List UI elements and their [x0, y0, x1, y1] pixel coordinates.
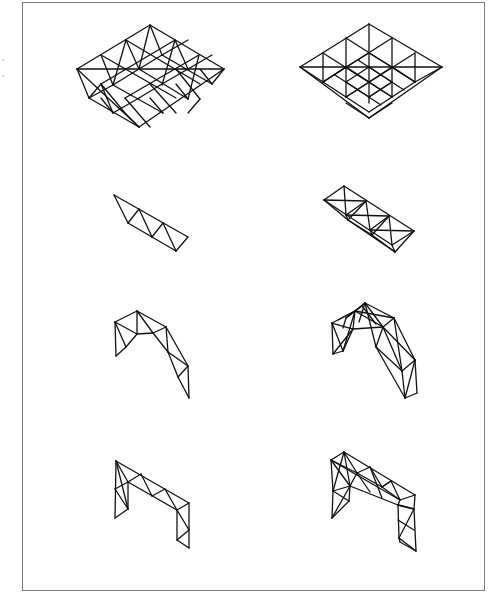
truss-member — [369, 53, 392, 67]
truss-member — [376, 347, 402, 371]
box-truss-right — [324, 186, 414, 252]
truss-member — [153, 327, 166, 333]
truss-member — [126, 334, 137, 347]
truss-member — [324, 200, 348, 220]
truss-member — [176, 237, 188, 251]
truss-member — [177, 530, 189, 540]
planar-truss-left — [114, 195, 188, 251]
truss-member — [398, 505, 399, 538]
truss-member — [128, 474, 141, 482]
truss-member — [332, 323, 343, 351]
truss-member — [348, 201, 366, 220]
truss-member — [89, 85, 113, 98]
truss-diagram — [0, 0, 494, 603]
scan-specks — [2, 59, 4, 77]
truss-member — [331, 460, 333, 491]
truss-member — [153, 333, 168, 352]
grid-plate-left — [77, 25, 224, 127]
truss-member — [346, 201, 366, 215]
scan-speck — [2, 59, 4, 61]
truss-member — [77, 69, 89, 98]
truss-member — [150, 25, 162, 55]
truss-member — [116, 347, 126, 356]
scan-speck — [2, 75, 4, 77]
truss-member — [166, 327, 188, 366]
truss-member — [392, 67, 415, 82]
truss-member — [125, 98, 150, 127]
truss-member — [128, 209, 139, 223]
truss-member — [177, 510, 189, 530]
truss-member — [350, 486, 398, 505]
truss-member — [405, 393, 417, 398]
grid-plate-right — [300, 24, 442, 118]
truss-member — [176, 84, 188, 99]
truss-member — [115, 311, 137, 322]
truss-member — [405, 360, 415, 398]
truss-member — [115, 322, 116, 356]
truss-member — [332, 491, 333, 518]
truss-member — [324, 200, 366, 201]
truss-member — [188, 55, 212, 69]
truss-member — [372, 216, 389, 235]
truss-member — [139, 69, 224, 127]
truss-member — [150, 98, 163, 113]
truss-member — [300, 67, 323, 82]
truss-member — [398, 505, 414, 509]
truss-member — [414, 495, 415, 509]
truss-member — [370, 216, 389, 230]
truss-member — [178, 366, 188, 377]
truss-member — [137, 333, 153, 334]
truss-member — [323, 82, 346, 97]
truss-member — [376, 347, 405, 398]
truss-member — [415, 360, 417, 393]
truss-member — [188, 55, 199, 99]
truss-member — [101, 84, 125, 113]
truss-member — [177, 503, 189, 510]
truss-member — [383, 318, 394, 327]
truss-member — [376, 327, 383, 347]
arch-truss-right — [332, 303, 417, 398]
truss-member — [115, 509, 128, 518]
truss-member — [353, 327, 383, 329]
truss-member — [400, 495, 415, 500]
truss-member — [178, 377, 189, 398]
portal-frame-left — [115, 461, 189, 548]
truss-member — [137, 311, 153, 333]
truss-member — [152, 489, 165, 496]
truss-member — [188, 366, 189, 398]
truss-member — [382, 481, 391, 487]
truss-member — [139, 84, 162, 98]
truss-member — [400, 542, 416, 551]
arch-truss-left — [115, 311, 189, 398]
structure-group — [77, 24, 442, 551]
truss-member — [150, 84, 176, 113]
truss-member — [137, 311, 166, 327]
portal-frame-right — [331, 452, 416, 551]
truss-member — [332, 323, 333, 354]
truss-member — [115, 322, 126, 347]
truss-member — [188, 99, 200, 113]
truss-member — [139, 25, 150, 69]
truss-member — [399, 509, 414, 538]
truss-member — [415, 67, 442, 82]
truss-member — [398, 500, 400, 505]
truss-member — [350, 473, 357, 486]
truss-member — [152, 223, 163, 237]
truss-member — [398, 520, 414, 530]
truss-member — [324, 186, 344, 200]
truss-member — [357, 467, 370, 473]
truss-member — [177, 540, 189, 548]
